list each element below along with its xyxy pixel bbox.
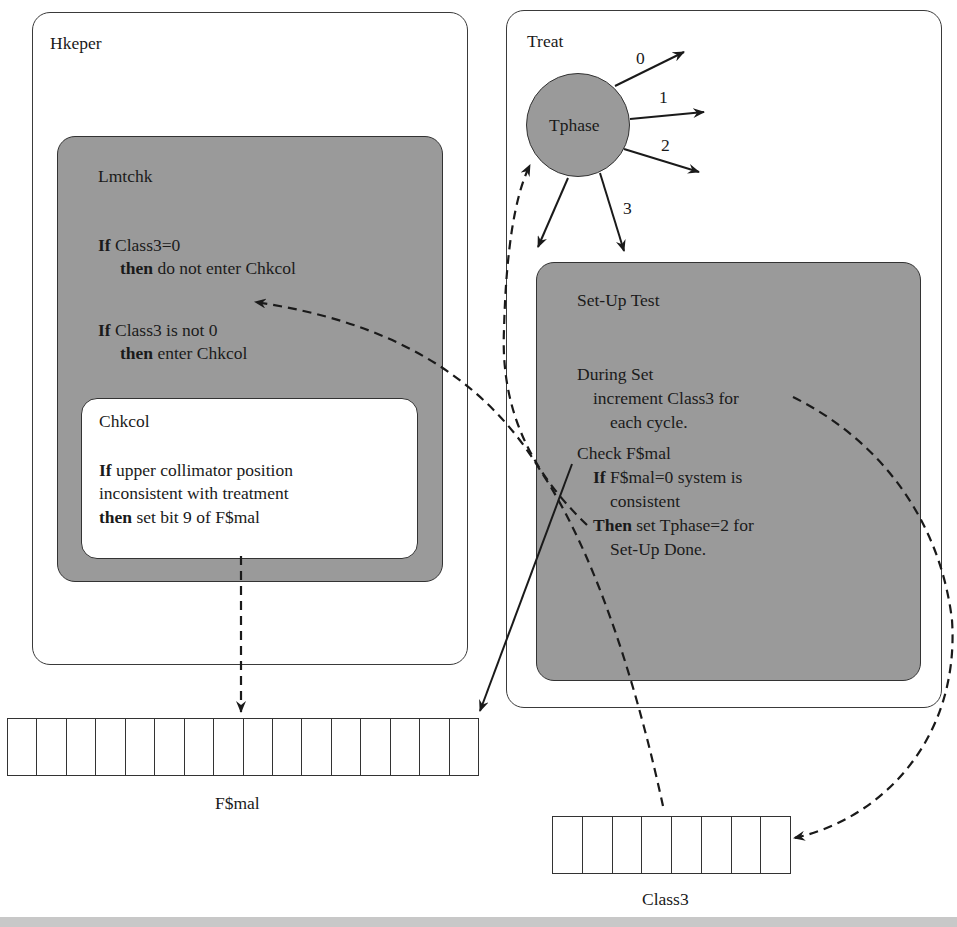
chkcol-line1: If upper collimator position: [99, 462, 293, 480]
treat-title: Treat: [527, 33, 563, 51]
fsmal-register: [7, 718, 479, 776]
bit-cell: [732, 817, 762, 873]
lmtchk-rule2-if: If Class3 is not 0: [98, 322, 218, 340]
branch-label-1: 1: [659, 89, 668, 107]
setup-consistent: consistent: [610, 493, 680, 511]
then-keyword: Then: [593, 515, 632, 535]
rule1-condition: Class3=0: [111, 235, 181, 255]
bottom-bar: [0, 917, 957, 927]
then-keyword: then: [99, 507, 132, 527]
bit-cell: [126, 719, 155, 775]
setup-each-cycle: each cycle.: [610, 414, 688, 432]
if-keyword: If: [593, 467, 606, 487]
setup-if-condition: F$mal=0 system is: [606, 467, 743, 487]
tphase-label: Tphase: [549, 117, 600, 135]
class3-register: [552, 816, 791, 874]
setup-if: If F$mal=0 system is: [593, 469, 742, 487]
fsmal-label: F$mal: [215, 795, 260, 813]
bit-cell: [214, 719, 243, 775]
bit-cell: [273, 719, 302, 775]
chkcol-line3: then set bit 9 of F$mal: [99, 509, 260, 527]
bit-cell: [67, 719, 96, 775]
chkcol-condition: upper collimator position: [112, 460, 293, 480]
rule2-condition: Class3 is not 0: [111, 320, 218, 340]
lmtchk-rule1-then: then do not enter Chkcol: [120, 260, 296, 278]
class3-label: Class3: [642, 891, 689, 909]
branch-label-2: 2: [661, 137, 670, 155]
lmtchk-title: Lmtchk: [98, 168, 152, 186]
bit-cell: [761, 817, 790, 873]
bit-cell: [391, 719, 420, 775]
bit-cell: [8, 719, 37, 775]
bit-cell: [37, 719, 66, 775]
bit-cell: [613, 817, 643, 873]
chkcol-line2: inconsistent with treatment: [99, 485, 289, 503]
setup-then: Then set Tphase=2 for: [593, 517, 754, 535]
then-keyword: then: [120, 258, 153, 278]
chkcol-action: set bit 9 of F$mal: [132, 507, 260, 527]
setup-check: Check F$mal: [577, 445, 671, 463]
bit-cell: [702, 817, 732, 873]
if-keyword: If: [99, 460, 112, 480]
bit-cell: [642, 817, 672, 873]
bit-cell: [185, 719, 214, 775]
setup-increment: increment Class3 for: [593, 390, 739, 408]
setup-during: During Set: [577, 366, 653, 384]
setup-then-action: set Tphase=2 for: [632, 515, 754, 535]
if-keyword: If: [98, 320, 111, 340]
lmtchk-rule1-if: If Class3=0: [98, 237, 180, 255]
bit-cell: [420, 719, 449, 775]
then-keyword: then: [120, 343, 153, 363]
branch-label-0: 0: [636, 50, 645, 68]
bit-cell: [155, 719, 184, 775]
chkcol-title: Chkcol: [99, 413, 150, 431]
bit-cell: [96, 719, 125, 775]
rule2-action: enter Chkcol: [153, 343, 247, 363]
bit-cell: [302, 719, 331, 775]
bit-cell: [332, 719, 361, 775]
setup-done: Set-Up Done.: [610, 541, 706, 559]
setup-test-title: Set-Up Test: [577, 292, 660, 310]
hkeper-title: Hkeper: [50, 35, 102, 53]
bit-cell: [672, 817, 702, 873]
bit-cell: [583, 817, 613, 873]
if-keyword: If: [98, 235, 111, 255]
lmtchk-rule2-then: then enter Chkcol: [120, 345, 247, 363]
bit-cell: [244, 719, 273, 775]
bit-cell: [361, 719, 390, 775]
bit-cell: [553, 817, 583, 873]
rule1-action: do not enter Chkcol: [153, 258, 296, 278]
bit-cell: [450, 719, 478, 775]
branch-label-3: 3: [623, 200, 632, 218]
